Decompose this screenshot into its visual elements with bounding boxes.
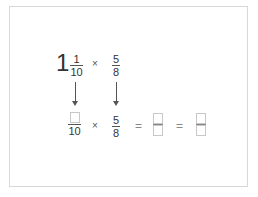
arrow-line-right (116, 82, 117, 102)
numerator-input-box[interactable] (70, 112, 80, 123)
equals-sign: = (135, 120, 142, 132)
improper-fraction: 10 (68, 112, 81, 137)
multiply-sign: × (92, 58, 98, 70)
down-arrow-icon (113, 101, 119, 106)
answer2-denominator-input[interactable] (196, 125, 206, 136)
mixed-fraction-part: 1 10 (70, 53, 83, 78)
denominator: 8 (113, 66, 119, 78)
multiply-sign: × (92, 120, 98, 132)
answer-fraction-2 (196, 113, 206, 136)
problem-frame (9, 6, 248, 187)
answer1-numerator-input[interactable] (153, 113, 163, 124)
denominator: 8 (113, 127, 119, 139)
answer-fraction-1 (153, 113, 163, 136)
arrow-line-left (75, 82, 76, 102)
answer2-numerator-input[interactable] (196, 113, 206, 124)
whole-number: 1 (56, 51, 69, 75)
numerator: 1 (73, 53, 79, 65)
denominator: 10 (70, 66, 82, 78)
second-fraction: 5 8 (112, 53, 120, 78)
numerator: 5 (113, 53, 119, 65)
equals-sign: = (176, 120, 183, 132)
second-fraction: 5 8 (112, 114, 120, 139)
down-arrow-icon (72, 101, 78, 106)
numerator: 5 (113, 114, 119, 126)
denominator: 10 (68, 125, 80, 137)
answer1-denominator-input[interactable] (153, 125, 163, 136)
